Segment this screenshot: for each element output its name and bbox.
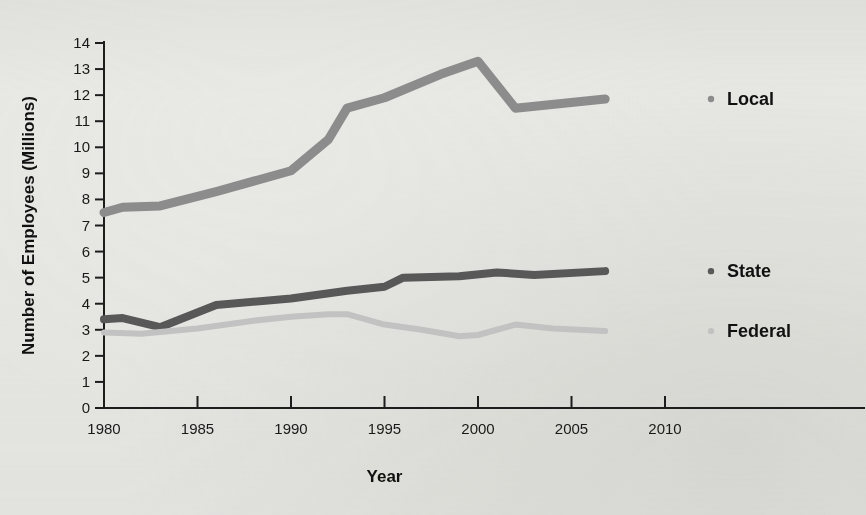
x-tick-label: 2005	[555, 420, 588, 437]
y-axis-ticks: 01234567891011121314	[73, 34, 104, 416]
y-tick-label: 5	[82, 269, 90, 286]
y-tick-label: 2	[82, 347, 90, 364]
line-chart: 0123456789101112131419801985199019952000…	[0, 0, 866, 515]
series-line-local	[104, 61, 605, 212]
legend-marker-federal	[708, 328, 714, 334]
legend-label-state: State	[727, 261, 771, 281]
legend: LocalStateFederal	[708, 89, 791, 341]
y-tick-label: 12	[73, 86, 90, 103]
y-tick-label: 11	[74, 112, 90, 129]
legend-marker-state	[708, 268, 714, 274]
x-tick-label: 2010	[648, 420, 681, 437]
x-axis-title: Year	[367, 467, 403, 486]
legend-marker-local	[708, 96, 714, 102]
x-tick-label: 1995	[368, 420, 401, 437]
x-axis-ticks: 1980198519901995200020052010	[87, 396, 681, 437]
y-tick-label: 9	[82, 164, 90, 181]
y-tick-label: 13	[73, 60, 90, 77]
legend-label-federal: Federal	[727, 321, 791, 341]
y-tick-label: 4	[82, 295, 90, 312]
y-tick-label: 10	[73, 138, 90, 155]
x-tick-label: 1985	[181, 420, 214, 437]
y-tick-label: 3	[82, 321, 90, 338]
y-tick-label: 1	[82, 373, 90, 390]
y-tick-label: 14	[73, 34, 90, 51]
x-tick-label: 2000	[461, 420, 494, 437]
y-tick-label: 7	[82, 217, 90, 234]
x-tick-label: 1980	[87, 420, 120, 437]
y-tick-label: 8	[82, 190, 90, 207]
y-tick-label: 0	[82, 399, 90, 416]
figure-canvas: 0123456789101112131419801985199019952000…	[0, 0, 866, 515]
y-tick-label: 6	[82, 243, 90, 260]
x-tick-label: 1990	[274, 420, 307, 437]
y-axis-title: Number of Employees (Millions)	[19, 96, 38, 355]
legend-label-local: Local	[727, 89, 774, 109]
